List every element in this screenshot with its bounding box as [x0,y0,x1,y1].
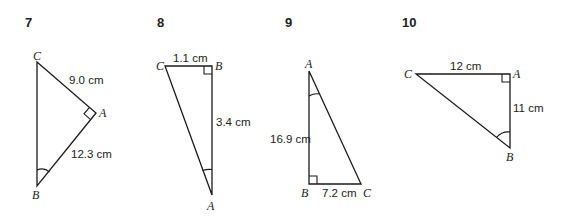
vertex-label-c: C [33,49,42,63]
triangle [165,66,212,195]
right-angle-marker [502,74,510,82]
vertex-label-a: A [512,67,521,81]
side-length-label: 12.3 cm [71,148,112,160]
vertex-label-a: A [98,106,107,120]
problem-7: 7 C A B 9.0 cm 12.3 cm [25,15,112,202]
problem-number: 8 [157,15,164,30]
vertex-label-c: C [156,59,165,73]
side-length-label: 12 cm [450,60,481,72]
problem-number: 7 [25,15,32,30]
angle-arc-marker [309,94,320,96]
side-length-label: 16.9 cm [270,133,311,145]
problem-10: 10 C A B 12 cm 11 cm [402,15,543,164]
triangle [416,74,510,148]
vertex-label-b: B [506,150,514,164]
side-length-label: 7.2 cm [322,187,357,199]
problem-number: 9 [285,15,292,30]
right-angle-marker [204,66,212,74]
angle-arc-marker [203,169,213,170]
angle-arc-marker [497,132,511,138]
vertex-label-b: B [215,59,223,73]
problem-9: 9 A B C 16.9 cm 7.2 cm [270,15,372,200]
vertex-label-a: A [304,57,313,71]
vertex-label-c: C [404,67,413,81]
side-length-label: 11 cm [513,102,543,114]
vertex-label-b: B [301,186,309,200]
right-angle-marker [84,107,90,119]
triangle-problems-diagram: 7 C A B 9.0 cm 12.3 cm 8 C B A 1.1 cm 3.… [0,0,569,217]
side-length-label: 3.4 cm [216,116,251,128]
vertex-label-b: B [32,188,40,202]
triangle [309,71,361,184]
angle-arc-marker [37,169,50,172]
vertex-label-c: C [363,186,372,200]
problem-8: 8 C B A 1.1 cm 3.4 cm [156,15,251,213]
side-length-label: 9.0 cm [69,74,104,86]
problem-number: 10 [402,15,416,30]
right-angle-marker [309,176,317,184]
vertex-label-a: A [206,199,215,213]
side-length-label: 1.1 cm [173,52,208,64]
